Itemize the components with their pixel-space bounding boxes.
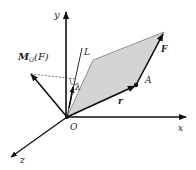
x-axis-label: x bbox=[178, 123, 183, 133]
origin-point bbox=[65, 115, 69, 119]
origin-label: O bbox=[70, 122, 78, 132]
y-axis-label: y bbox=[53, 9, 60, 20]
moment-label: MO(F) bbox=[17, 51, 49, 63]
moment-diagram: y x z O A F r L λ MO(F) bbox=[0, 0, 196, 170]
moment-label-argument: (F) bbox=[34, 51, 49, 62]
z-axis bbox=[11, 117, 67, 157]
moment-vector bbox=[31, 74, 67, 117]
projection-dashed-line bbox=[31, 74, 76, 79]
point-A-label: A bbox=[144, 75, 152, 85]
force-label: F bbox=[160, 44, 168, 54]
position-vector-label: r bbox=[118, 96, 124, 106]
lambda-label: λ bbox=[74, 82, 81, 92]
z-axis-label: z bbox=[19, 155, 25, 165]
moment-label-main: M bbox=[17, 51, 30, 62]
axis-L-label: L bbox=[83, 47, 90, 57]
